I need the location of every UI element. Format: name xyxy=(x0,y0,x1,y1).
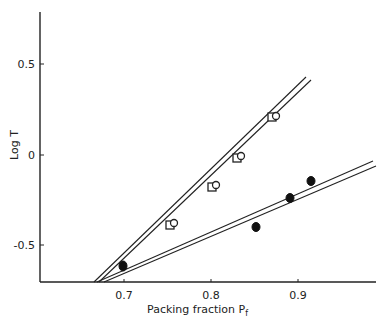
fit-line-filled xyxy=(97,161,376,282)
data-point-filled xyxy=(252,223,260,232)
chart: 0.5 0 -0.5 0.7 0.8 0.9 Packing fraction … xyxy=(0,0,386,320)
y-tick-label: -0.5 xyxy=(14,239,35,252)
x-tick-label: 0.8 xyxy=(202,289,220,302)
x-axis-title-main: Packing fraction P xyxy=(147,303,246,316)
x-axis-title-sub: f xyxy=(245,309,248,318)
data-point-filled xyxy=(286,194,294,203)
x-axis-title: Packing fraction Pf xyxy=(147,303,248,318)
y-tick-label: 0.5 xyxy=(18,58,36,71)
data-point-open xyxy=(268,113,280,122)
data-point-open xyxy=(208,182,220,192)
data-point-filled xyxy=(119,261,127,271)
x-tick-label: 0.7 xyxy=(115,289,133,302)
open-markers xyxy=(166,113,280,230)
data-point-open xyxy=(233,153,245,163)
y-axis-title: Log T xyxy=(8,130,21,160)
data-point-open xyxy=(166,220,178,230)
fit-line-open xyxy=(94,77,311,282)
y-tick-label: 0 xyxy=(28,149,35,162)
data-point-filled xyxy=(307,177,315,186)
filled-markers xyxy=(119,177,315,272)
x-tick-label: 0.9 xyxy=(289,289,307,302)
